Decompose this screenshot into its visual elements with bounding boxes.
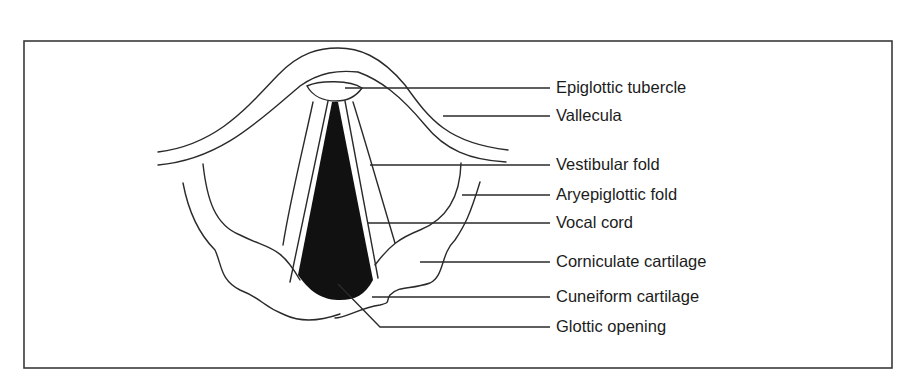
label-vestibular-fold: Vestibular fold bbox=[556, 156, 660, 173]
label-epiglottic-tubercle: Epiglottic tubercle bbox=[556, 79, 686, 96]
larynx-diagram bbox=[0, 0, 908, 382]
left-aryepiglottic-fold-inner bbox=[203, 164, 300, 280]
label-aryepiglottic-fold: Aryepiglottic fold bbox=[556, 186, 677, 203]
label-corniculate-cartilage: Corniculate cartilage bbox=[556, 253, 706, 270]
figure-border bbox=[24, 41, 892, 368]
label-glottic-opening: Glottic opening bbox=[556, 318, 666, 335]
label-vallecula: Vallecula bbox=[556, 107, 622, 124]
epiglottic-tubercle-shape bbox=[307, 82, 362, 101]
leader-glottic-opening bbox=[338, 284, 550, 327]
label-vocal-cord: Vocal cord bbox=[556, 214, 633, 231]
label-cuneiform-cartilage: Cuneiform cartilage bbox=[556, 288, 699, 305]
